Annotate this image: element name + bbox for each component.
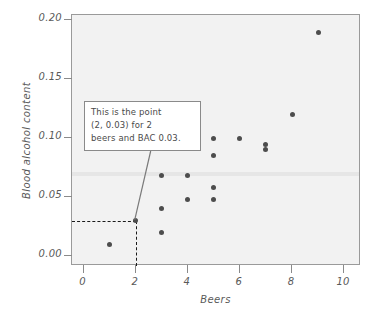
- data-point: [185, 197, 190, 202]
- annotation-line-3: beers and BAC 0.03.: [91, 132, 195, 145]
- x-axis-tick-label: 2: [120, 276, 150, 287]
- x-axis-tick-label: 4: [172, 276, 202, 287]
- x-axis-tick: [343, 265, 344, 273]
- x-axis-tick-label: 0: [68, 276, 98, 287]
- y-axis-tick: [64, 78, 72, 79]
- x-axis-tick: [135, 265, 136, 273]
- x-axis-tick: [83, 265, 84, 273]
- x-axis-tick: [291, 265, 292, 273]
- background-band: [72, 172, 359, 176]
- x-axis-tick-label: 6: [224, 276, 254, 287]
- data-point: [211, 136, 216, 141]
- data-point: [159, 173, 164, 178]
- scatter-plot-figure: 0.000.050.100.150.20 0246810 Beers Blood…: [0, 0, 378, 319]
- guide-line-horizontal: [72, 221, 136, 222]
- data-point: [211, 153, 216, 158]
- guide-line-vertical: [136, 221, 137, 266]
- y-axis-tick-label: 0.00: [22, 248, 62, 259]
- x-axis-title: Beers: [71, 294, 360, 305]
- y-axis-tick: [64, 255, 72, 256]
- annotation-callout: This is the point (2, 0.03) for 2 beers …: [84, 101, 201, 151]
- data-point: [263, 147, 268, 152]
- x-axis-tick-label: 10: [328, 276, 358, 287]
- data-point: [211, 185, 216, 190]
- annotation-line-2: (2, 0.03) for 2: [91, 119, 195, 132]
- data-point: [237, 136, 242, 141]
- y-axis-title: Blood alcohol content: [21, 41, 32, 241]
- data-point: [263, 142, 268, 147]
- data-point: [211, 197, 216, 202]
- x-axis-tick: [187, 265, 188, 273]
- data-point: [107, 242, 112, 247]
- data-point: [316, 30, 321, 35]
- data-point: [185, 173, 190, 178]
- y-axis-tick: [64, 137, 72, 138]
- x-axis-tick-label: 8: [276, 276, 306, 287]
- data-point: [159, 230, 164, 235]
- y-axis-tick-label: 0.20: [22, 12, 62, 23]
- y-axis-tick: [64, 196, 72, 197]
- data-point: [159, 206, 164, 211]
- annotation-line-1: This is the point: [91, 106, 195, 119]
- data-point: [290, 112, 295, 117]
- data-point: [133, 218, 138, 223]
- x-axis-tick: [239, 265, 240, 273]
- y-axis-tick: [64, 19, 72, 20]
